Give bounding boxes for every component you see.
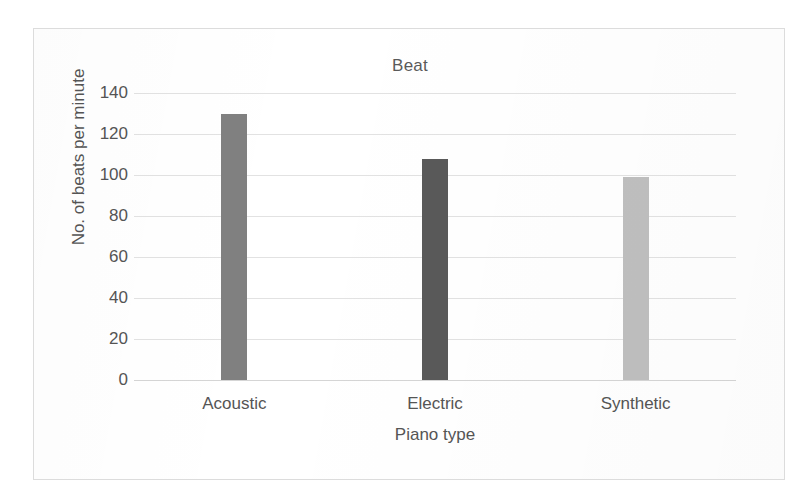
y-tick-label: 60 — [82, 247, 128, 267]
y-tick-label: 140 — [82, 83, 128, 103]
plot-area — [134, 93, 736, 380]
bar-electric — [422, 159, 448, 380]
y-tick-label: 40 — [82, 288, 128, 308]
gridline — [134, 93, 736, 94]
x-tick-label: Synthetic — [556, 394, 716, 414]
y-tick-label: 80 — [82, 206, 128, 226]
gridline — [134, 380, 736, 381]
x-tick-label: Electric — [355, 394, 515, 414]
y-tick-label: 0 — [82, 370, 128, 390]
chart-title: Beat — [34, 56, 786, 76]
chart-frame: Beat No. of beats per minute 02040608010… — [33, 28, 785, 480]
y-tick-label: 100 — [82, 165, 128, 185]
y-tick-label: 20 — [82, 329, 128, 349]
x-axis-tick-labels: AcousticElectricSynthetic — [134, 394, 736, 420]
x-axis-title: Piano type — [134, 425, 736, 445]
y-axis-tick-labels: 020406080100120140 — [74, 93, 128, 380]
y-tick-label: 120 — [82, 124, 128, 144]
bar-acoustic — [221, 114, 247, 381]
bar-synthetic — [623, 177, 649, 380]
x-tick-label: Acoustic — [154, 394, 314, 414]
